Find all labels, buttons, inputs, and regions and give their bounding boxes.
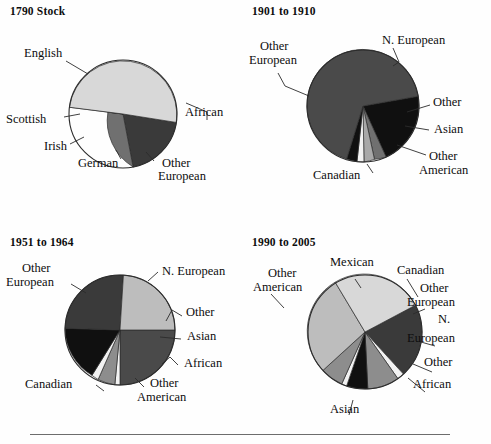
pie-slice-canadian [65, 275, 123, 330]
pie-label-other-american-bottom: American [253, 281, 302, 295]
pie-slice-english [69, 61, 176, 123]
pie-label-other-american-bottom: American [419, 164, 468, 178]
pie-label-n-european: N. European [382, 34, 445, 48]
pie-slices-1790 [69, 61, 176, 167]
bottom-divider [30, 434, 450, 435]
pie-label-other: Other [186, 306, 214, 320]
pie-label-other-european-top: Other [22, 262, 50, 276]
pie-label-asian: Asian [187, 330, 216, 344]
pie-label-scottish: Scottish [6, 113, 46, 127]
pie-label-irish: Irish [44, 140, 67, 154]
pie-label-other-european-top: Other [260, 40, 288, 54]
pie-slice-other-european [120, 275, 175, 330]
pie-label-n-european-bottom: European [407, 332, 455, 346]
pie-chart-1901-1910 [245, 0, 491, 222]
pie-label-other-american-top: Other [268, 267, 296, 281]
pie-label-other: Other [433, 96, 461, 110]
pie-label-n-european: N. European [162, 265, 225, 279]
pie-label-mexican: Mexican [330, 256, 374, 270]
pie-chart-1990-2005 [245, 222, 491, 422]
pie-label-canadian: Canadian [397, 264, 444, 278]
pie-label-african: African [185, 106, 223, 120]
pie-label-other-american-top: Other [150, 377, 178, 391]
pie-slices-1951 [65, 275, 175, 385]
pie-label-other-european-bottom: European [407, 296, 455, 310]
pie-label-other-european-top: Other [420, 282, 448, 296]
figure-canvas: 1790 Stock [0, 0, 491, 444]
pie-label-canadian: Canadian [313, 169, 360, 183]
pie-label-other-european: European [158, 170, 206, 184]
pie-label-other: Other [424, 356, 452, 370]
pie-label-other-european-bottom: European [249, 54, 297, 68]
pie-label-n-european-top: N. [438, 313, 450, 327]
pie-chart-1951-1964 [0, 222, 245, 422]
pie-label-asian: Asian [330, 403, 359, 417]
pie-label-other-american-bottom: American [137, 391, 186, 405]
pie-label-other-american-top: Other [429, 150, 457, 164]
pie-label-african: African [413, 378, 451, 392]
pie-label-other-european-bottom: European [6, 276, 54, 290]
pie-label-asian: Asian [434, 123, 463, 137]
pie-label-german: German [78, 157, 118, 171]
pie-label-african: African [184, 357, 222, 371]
pie-label-canadian: Canadian [25, 378, 72, 392]
pie-label-english: English [24, 47, 62, 61]
